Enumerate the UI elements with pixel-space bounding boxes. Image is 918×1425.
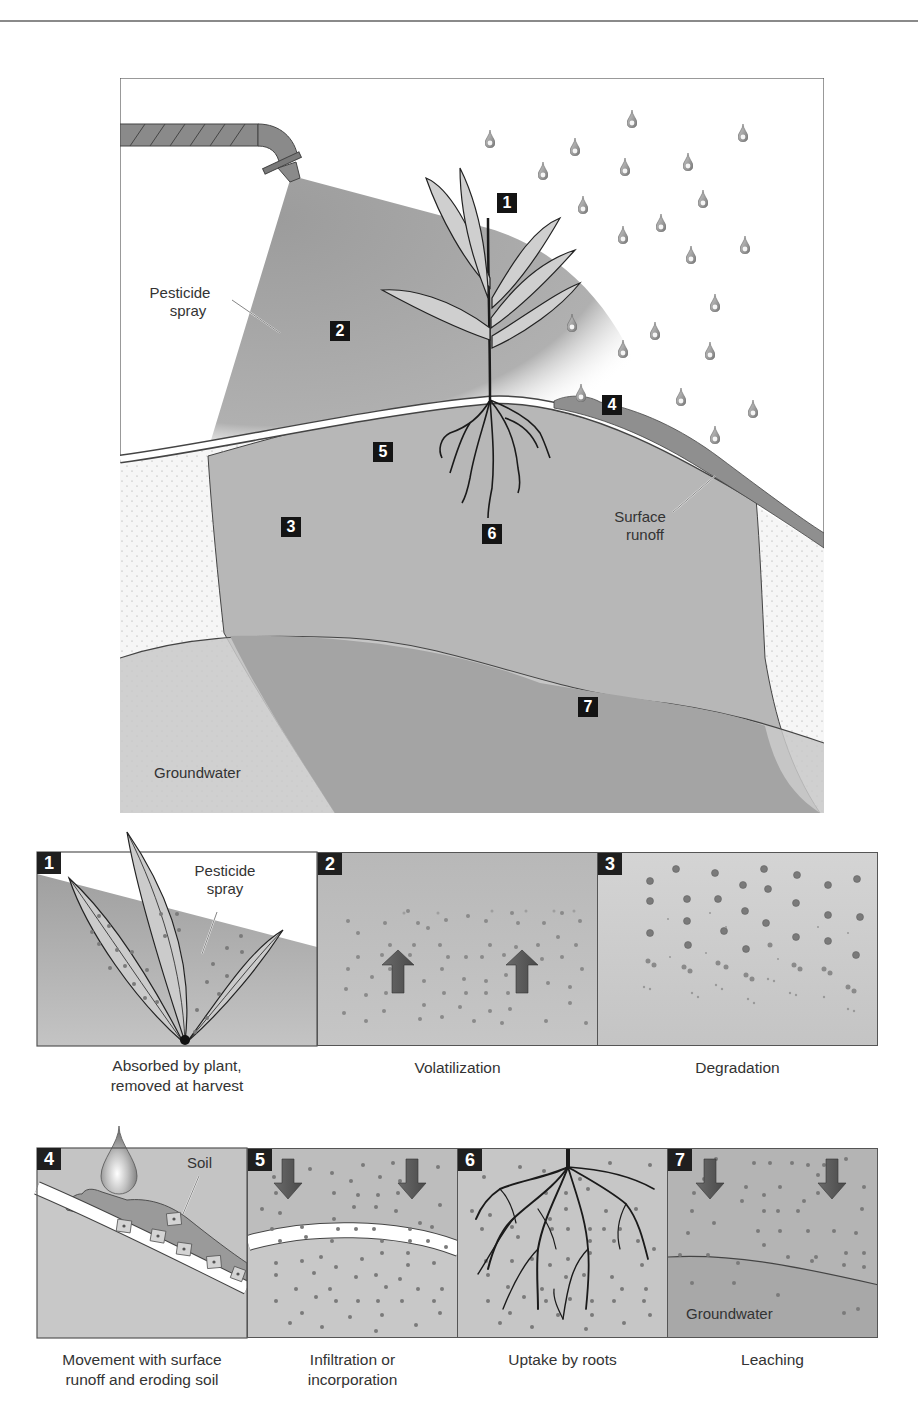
panel-2-caption-line1: Volatilization — [317, 1058, 598, 1078]
surface-runoff-label-line1: Surface — [605, 508, 675, 526]
panel-4-surface-runoff: 4 Soil — [37, 1148, 247, 1338]
panel-2-volatilization: 2 — [317, 852, 598, 1046]
panel-3-caption-line1: Degradation — [597, 1058, 878, 1078]
badge-7: 7 — [578, 697, 598, 717]
badge-1: 1 — [497, 193, 517, 213]
panel-6-caption: Uptake by roots — [457, 1350, 668, 1370]
top-rule — [0, 20, 918, 22]
panel-4-svg — [37, 1148, 247, 1338]
panel-7-caption-line1: Leaching — [667, 1350, 878, 1370]
panel-3-degradation: 3 — [597, 852, 878, 1046]
pesticide-spray-label-line1: Pesticide — [140, 284, 220, 302]
surface-runoff-label-line2: runoff — [605, 526, 675, 544]
groundwater-label: Groundwater — [154, 764, 241, 782]
panel-7-groundwater-label: Groundwater — [686, 1305, 773, 1323]
pesticide-spray-label: Pesticide spray — [140, 284, 220, 320]
panel-3-caption: Degradation — [597, 1058, 878, 1078]
panel-6-uptake-by-roots: 6 — [457, 1148, 668, 1338]
panel-1-caption: Absorbed by plant, removed at harvest — [37, 1056, 317, 1096]
panel-4-soil-label: Soil — [187, 1154, 212, 1172]
badge-4: 4 — [602, 395, 622, 415]
badge-6: 6 — [482, 524, 502, 544]
panel-7-badge: 7 — [668, 1149, 692, 1171]
panel-3-badge: 3 — [598, 853, 622, 875]
panel-5-caption-line1: Infiltration or — [247, 1350, 458, 1370]
panel-3-svg — [598, 853, 878, 1046]
main-diagram-svg — [120, 78, 824, 813]
panel-1-caption-line1: Absorbed by plant, — [37, 1056, 317, 1076]
panel-7-leaching: 7 Groundwater — [667, 1148, 878, 1338]
panel-5-badge: 5 — [248, 1149, 272, 1171]
pesticide-spray-label-line2: spray — [140, 302, 220, 320]
panel-4-badge: 4 — [37, 1148, 61, 1170]
panel-2-caption: Volatilization — [317, 1058, 598, 1078]
panel-6-caption-line1: Uptake by roots — [457, 1350, 668, 1370]
panel-5-infiltration: 5 — [247, 1148, 458, 1338]
panel-2-svg — [318, 853, 598, 1046]
panel-2-badge: 2 — [318, 853, 342, 875]
panel-1-inner-label-line2: spray — [185, 880, 265, 898]
panel-5-caption-line2: incorporation — [247, 1370, 458, 1390]
panel-5-caption: Infiltration or incorporation — [247, 1350, 458, 1390]
panel-6-badge: 6 — [458, 1149, 482, 1171]
panel-1-pesticide-spray-label: Pesticide spray — [185, 862, 265, 898]
panel-7-caption: Leaching — [667, 1350, 878, 1370]
main-diagram: Pesticide spray Surface runoff Groundwat… — [120, 78, 824, 813]
panel-5-svg — [248, 1149, 458, 1338]
panel-1-absorbed-by-plant: 1 Pesticide spray — [37, 852, 317, 1046]
panel-1-svg — [37, 852, 317, 1046]
panel-4-caption-line1: Movement with surface — [22, 1350, 262, 1370]
badge-3: 3 — [281, 517, 301, 537]
panel-4-caption-line2: runoff and eroding soil — [22, 1370, 262, 1390]
badge-5: 5 — [373, 442, 393, 462]
panel-1-caption-line2: removed at harvest — [37, 1076, 317, 1096]
panel-1-badge: 1 — [37, 852, 61, 874]
surface-runoff-label: Surface runoff — [605, 508, 675, 544]
panel-4-caption: Movement with surface runoff and eroding… — [22, 1350, 262, 1390]
badge-2: 2 — [330, 321, 350, 341]
panel-6-svg — [458, 1149, 668, 1338]
panel-1-inner-label-line1: Pesticide — [185, 862, 265, 880]
